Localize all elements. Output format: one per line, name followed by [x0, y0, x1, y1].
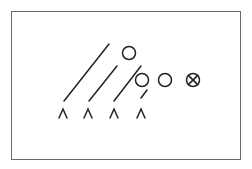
offensive-player-circle-1	[123, 47, 136, 60]
offensive-player-circle-2	[136, 74, 149, 87]
route-line-1	[64, 44, 109, 101]
route-line-4	[141, 90, 147, 98]
center-x-circle-icon	[187, 74, 200, 87]
offensive-player-circle-3	[159, 74, 172, 87]
route-line-2	[89, 66, 117, 101]
defender-caret-icons	[59, 109, 145, 118]
play-diagram	[0, 0, 252, 169]
